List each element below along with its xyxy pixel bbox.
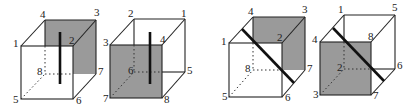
- vertex-label: 5: [187, 64, 193, 76]
- cube-3: 1 2 3 4 5 6 7 8: [221, 3, 313, 103]
- vertex-label: 1: [13, 37, 19, 49]
- cube-4: 1 2 3 4 5 6 7 8: [312, 1, 403, 101]
- vertex-label: 2: [277, 31, 283, 43]
- vertex-label: 7: [373, 89, 379, 101]
- vertex-label: 3: [313, 88, 319, 100]
- vertex-label: 3: [103, 36, 109, 48]
- vertex-label: 5: [222, 90, 228, 102]
- cube-2: 1 2 3 4 5 6 7 8: [103, 7, 193, 105]
- vertex-label: 4: [160, 33, 166, 45]
- vertex-label: 4: [312, 33, 318, 45]
- vertex-label: 3: [94, 6, 100, 18]
- vertex-label: 3: [302, 3, 308, 15]
- vertex-label: 6: [128, 64, 134, 76]
- vertex-label: 5: [13, 93, 19, 105]
- vertex-label: 4: [40, 8, 46, 20]
- vertex-label: 7: [103, 92, 109, 104]
- vertex-label: 8: [164, 93, 170, 105]
- vertex-label: 6: [397, 59, 403, 71]
- vertex-label: 2: [69, 34, 75, 46]
- vertex-label: 2: [337, 61, 343, 73]
- vertex-label: 8: [368, 30, 374, 42]
- vertex-label: 8: [245, 62, 251, 74]
- vertex-label: 2: [128, 7, 134, 19]
- vertex-label: 8: [37, 65, 43, 77]
- vertex-label: 7: [307, 62, 313, 74]
- vertex-label: 4: [248, 5, 254, 17]
- cube-diagram: 1 2 3 4 5 6 7 8 1 2 3 4 5 6 7 8: [0, 0, 414, 111]
- vertex-label: 1: [221, 35, 227, 47]
- cube-1: 1 2 3 4 5 6 7 8: [13, 6, 104, 106]
- vertex-label: 6: [76, 94, 82, 106]
- vertex-label: 6: [285, 91, 291, 103]
- front-face: [21, 46, 73, 99]
- vertex-label: 7: [98, 65, 104, 77]
- vertex-label: 1: [181, 7, 187, 19]
- vertex-label: 5: [392, 1, 398, 13]
- vertex-label: 1: [338, 3, 344, 15]
